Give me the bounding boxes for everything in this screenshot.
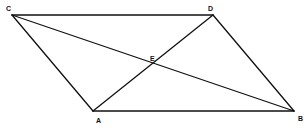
parallelogram-figure: ABCDE xyxy=(0,0,308,128)
vertex-label-d: D xyxy=(208,5,213,12)
vertex-label-e: E xyxy=(150,55,155,62)
diagram-canvas: ABCDE xyxy=(0,0,308,128)
vertex-label-b: B xyxy=(298,115,303,122)
vertex-label-c: C xyxy=(6,5,11,12)
diagonal-AD-line xyxy=(93,15,213,111)
vertex-label-a: A xyxy=(96,117,101,124)
